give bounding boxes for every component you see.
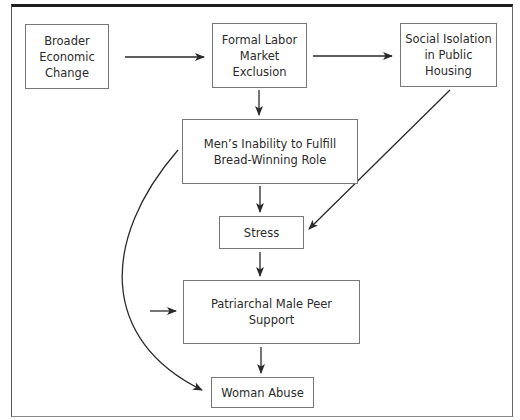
node-label: Formal Labor Market Exclusion [222, 32, 297, 80]
node-mens-inability: Men’s Inability to Fulfill Bread-Winning… [182, 119, 358, 184]
node-social-isolation-public-housing: Social Isolation in Public Housing [400, 23, 497, 87]
node-label: Men’s Inability to Fulfill Bread-Winning… [204, 136, 336, 168]
node-label: Broader Economic Change [39, 33, 95, 81]
node-stress: Stress [219, 216, 304, 249]
node-broader-economic-change: Broader Economic Change [25, 24, 109, 89]
node-formal-labor-market-exclusion: Formal Labor Market Exclusion [212, 23, 307, 88]
node-label: Patriarchal Male Peer Support [211, 296, 332, 328]
node-label: Social Isolation in Public Housing [405, 31, 491, 79]
node-label: Woman Abuse [221, 385, 303, 401]
node-label: Stress [244, 225, 279, 241]
node-patriarchal-male-peer-support: Patriarchal Male Peer Support [183, 280, 360, 344]
node-woman-abuse: Woman Abuse [211, 377, 314, 408]
arrow-inability-to-abuse-curved [122, 150, 202, 390]
